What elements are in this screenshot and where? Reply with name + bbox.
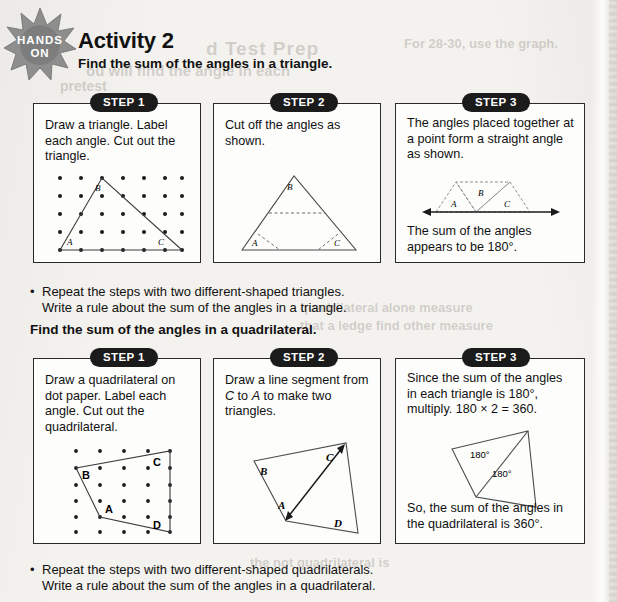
- bullet-line-1: Repeat the steps with two different-shap…: [42, 284, 347, 300]
- step-instruction: The angles placed together at a point fo…: [407, 116, 575, 163]
- step-conclusion: The sum of the angles appears to be 180°…: [407, 224, 575, 255]
- triangle-section-subtitle: Find the sum of the angles in a triangle…: [78, 56, 332, 71]
- quadrilateral-step-3-box: STEP 3 Since the sum of the angles in ea…: [395, 358, 585, 544]
- bullet-marker: •: [30, 284, 35, 300]
- vertex-label-a: A: [277, 499, 285, 511]
- bullet-line-1: Repeat the steps with two different-shap…: [42, 562, 376, 578]
- bullet-marker: •: [30, 562, 35, 578]
- triangle-step-2-box: STEP 2 Cut off the angles as shown. B A …: [213, 103, 381, 263]
- quadrilateral-bullet: • Repeat the steps with two different-sh…: [30, 562, 376, 594]
- point-c-ref: C: [225, 389, 234, 403]
- vertex-label-b: B: [287, 182, 293, 192]
- step-instruction: Cut off the angles as shown.: [225, 118, 371, 149]
- vertex-label-d: D: [333, 517, 342, 529]
- bullet-line-2: Write a rule about the sum of the angles…: [42, 300, 347, 316]
- vertex-label-a: A: [450, 199, 457, 209]
- step-instruction: Since the sum of the angles in each tria…: [407, 371, 575, 418]
- quadrilateral-step-2-box: STEP 2 Draw a line segment from C to A t…: [213, 358, 381, 544]
- quadrilateral-diagonal-figure: B C A D: [242, 435, 366, 543]
- step-badge: STEP 3: [462, 93, 530, 112]
- vertex-label-d: D: [153, 519, 161, 531]
- vertex-label-a: A: [66, 237, 73, 247]
- step-badge: STEP 2: [270, 93, 338, 112]
- triangle-step-3-box: STEP 3 The angles placed together at a p…: [395, 103, 585, 263]
- step-badge: STEP 1: [90, 93, 158, 112]
- hands-on-badge: HANDS ON: [4, 8, 76, 80]
- page-title: Activity 2: [78, 28, 174, 54]
- vertex-label-a: A: [251, 238, 258, 248]
- vertex-label-c: C: [158, 237, 165, 247]
- quadrilateral-section-subtitle: Find the sum of the angles in a quadrila…: [30, 322, 317, 337]
- instruction-part-2: to: [234, 389, 252, 403]
- bullet-line-2: Write a rule about the sum of the angles…: [42, 578, 376, 594]
- step-instruction: Draw a triangle. Label each angle. Cut o…: [45, 118, 191, 165]
- on-label: ON: [30, 47, 49, 59]
- starburst-icon: HANDS ON: [4, 8, 76, 80]
- step-badge: STEP 1: [90, 348, 158, 367]
- vertex-label-c: C: [504, 199, 511, 209]
- straight-angle-figure: A B C: [418, 172, 564, 224]
- triangle-cut-lines-figure: B A C: [232, 166, 364, 260]
- vertex-label-b: B: [82, 469, 90, 481]
- vertex-label-b: B: [478, 188, 484, 198]
- step-badge: STEP 2: [270, 348, 338, 367]
- point-a-ref: A: [252, 389, 260, 403]
- vertex-label-a: A: [105, 503, 113, 515]
- step-conclusion: So, the sum of the angles in the quadril…: [407, 501, 575, 532]
- vertex-label-b: B: [95, 183, 101, 193]
- instruction-part-1: Draw a line segment from: [225, 373, 368, 387]
- dot-paper-quadrilateral-figure: B C A D: [60, 443, 180, 539]
- vertex-label-c: C: [334, 238, 341, 248]
- page-edge: [591, 0, 617, 602]
- dot-paper-triangle-figure: B A C: [48, 170, 188, 260]
- step-badge: STEP 3: [462, 348, 530, 367]
- angle-label-1: 180°: [470, 449, 490, 460]
- quadrilateral-step-1-box: STEP 1 Draw a quadrilateral on dot paper…: [33, 358, 201, 544]
- vertex-label-b: B: [259, 465, 267, 477]
- hands-label: HANDS: [17, 34, 63, 46]
- vertex-label-c: C: [153, 456, 161, 468]
- triangle-bullet: • Repeat the steps with two different-sh…: [30, 284, 347, 316]
- vertex-label-c: C: [326, 451, 334, 463]
- triangle-step-1-box: STEP 1 Draw a triangle. Label each angle…: [33, 103, 201, 263]
- step-instruction: Draw a quadrilateral on dot paper. Label…: [45, 373, 191, 435]
- angle-label-2: 180°: [492, 468, 512, 479]
- step-instruction: Draw a line segment from C to A to make …: [225, 373, 371, 420]
